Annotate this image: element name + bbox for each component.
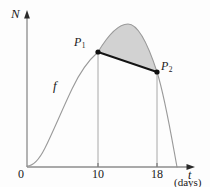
x-axis-units-label: (days) <box>174 177 202 187</box>
point-label-p1-subscript: 1 <box>82 41 86 50</box>
y-axis-arrowhead <box>24 10 30 19</box>
point-label-p2-subscript: 2 <box>169 65 173 74</box>
point-label-p2: P2 <box>161 60 172 73</box>
y-axis-label: N <box>11 7 20 20</box>
x-tick-label-10: 10 <box>92 168 104 180</box>
graph-figure: N f P1 P2 t 0 10 18 (days) <box>0 0 210 187</box>
point-marker-p2 <box>154 69 159 74</box>
point-label-p1-base: P <box>74 35 81 49</box>
origin-label: 0 <box>18 168 24 180</box>
curve-f <box>27 24 177 167</box>
point-label-p1: P1 <box>74 36 85 49</box>
curve-label-f: f <box>53 79 57 92</box>
graph-canvas <box>0 0 210 187</box>
point-marker-p1 <box>95 49 100 54</box>
x-tick-label-18: 18 <box>151 168 163 180</box>
point-label-p2-base: P <box>161 59 168 73</box>
